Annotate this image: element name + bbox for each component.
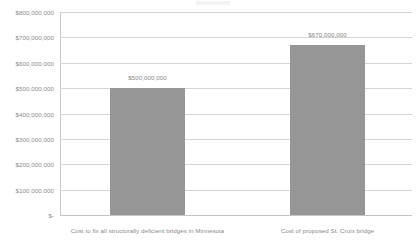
y-tick-label-7: $700,000,000 [16,34,54,41]
bar-chart: $- $100,000,000 $200,000,000 $300,000,00… [0,0,420,244]
y-tick-label-1: $100,000,000 [16,186,54,193]
y-tick-label-2: $200,000,000 [16,161,54,168]
y-tick-label-8: $800,000,000 [16,9,54,16]
y-tick-label-6: $600,000,000 [16,59,54,66]
bar-value-label-0: $500,000,000 [128,74,166,81]
plot-area: $500,000,000 $670,000,000 [60,12,412,215]
bar-value-label-1: $670,000,000 [308,31,346,38]
bar-bridge-repair-cost[interactable] [110,88,185,215]
y-tick-label-3: $300,000,000 [16,135,54,142]
gridline-700m [60,37,412,38]
scan-artifact [196,1,230,5]
x-axis-category-labels: Cost to fix all structurally deficient b… [60,224,412,240]
y-tick-label-5: $500,000,000 [16,85,54,92]
category-label-0: Cost to fix all structurally deficient b… [71,227,225,234]
category-label-1: Cost of proposed St. Croix bridge [281,227,374,234]
gridline-800m [60,12,412,13]
y-tick-label-4: $400,000,000 [16,110,54,117]
y-tick-label-0: $- [48,212,54,219]
y-axis-tick-labels: $- $100,000,000 $200,000,000 $300,000,00… [0,12,56,215]
gridline-zero-baseline [60,215,412,216]
bar-st-croix-bridge-cost[interactable] [290,45,365,215]
